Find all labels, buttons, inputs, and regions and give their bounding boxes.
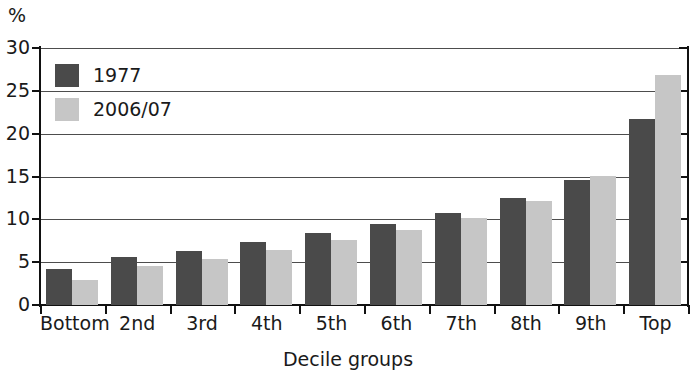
x-axis-tick-label: 7th (429, 312, 494, 334)
legend-swatch-icon-1977 (55, 64, 79, 87)
x-axis-title: Decile groups (0, 348, 696, 370)
x-axis-tick-label: 3rd (170, 312, 235, 334)
bar-group (170, 48, 235, 305)
bar-group (299, 48, 364, 305)
y-axis-tick-labels: 051015202530 (0, 0, 30, 387)
bar (72, 280, 98, 305)
legend-item-1977: 1977 (55, 58, 172, 92)
x-axis-tick-label: 5th (299, 312, 364, 334)
x-axis-tick-label: Bottom (40, 312, 105, 334)
bar (266, 250, 292, 305)
x-axis-tick-label: Top (623, 312, 688, 334)
bar (500, 198, 526, 305)
chart-legend: 1977 2006/07 (55, 58, 172, 126)
legend-label-1977: 1977 (93, 66, 141, 85)
legend-label-2006-07: 2006/07 (93, 100, 172, 119)
legend-item-2006-07: 2006/07 (55, 92, 172, 126)
bar-group (364, 48, 429, 305)
y-axis-tick-label: 0 (2, 295, 30, 314)
x-axis-tick-label: 8th (494, 312, 559, 334)
bar (655, 75, 681, 305)
x-axis-tick-label: 6th (364, 312, 429, 334)
bar (46, 269, 72, 305)
x-axis-tick-label: 9th (558, 312, 623, 334)
bar-chart: % 051015202530 Bottom2nd3rd4th5th6th7th8… (0, 0, 696, 387)
bar (176, 251, 202, 305)
bar-group (494, 48, 559, 305)
bar (331, 240, 357, 305)
y-axis-tick-label: 30 (2, 38, 30, 57)
bar (526, 201, 552, 305)
x-axis-tick (688, 305, 690, 314)
y-axis-tick-label: 15 (2, 167, 30, 186)
y-axis-tick-label: 5 (2, 252, 30, 271)
y-axis-tick-label: 20 (2, 124, 30, 143)
bar (629, 119, 655, 305)
bar-group (623, 48, 688, 305)
legend-swatch-icon-2006-07 (55, 98, 79, 121)
bar (461, 218, 487, 305)
x-axis-tick-label: 4th (234, 312, 299, 334)
bar (435, 213, 461, 305)
y-axis-tick-label: 25 (2, 81, 30, 100)
x-axis-tick-label: 2nd (105, 312, 170, 334)
bar (590, 176, 616, 305)
bar-group (558, 48, 623, 305)
y-axis-tick-label: 10 (2, 209, 30, 228)
bar-group (429, 48, 494, 305)
bar (111, 257, 137, 305)
bar (396, 230, 422, 305)
bar (564, 180, 590, 305)
bar (370, 224, 396, 305)
bar (240, 242, 266, 305)
bar (202, 259, 228, 305)
bar (305, 233, 331, 305)
bar-group (234, 48, 299, 305)
bar (137, 266, 163, 305)
